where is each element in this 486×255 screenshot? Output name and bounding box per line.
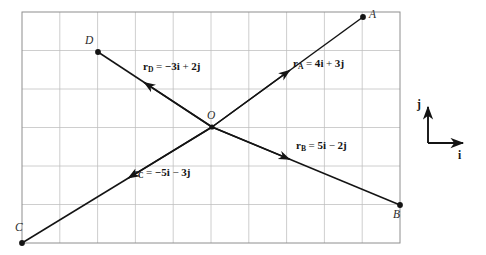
point-dot-A (360, 14, 366, 20)
point-label-D: D (85, 35, 93, 47)
vector-eq-rB: = (306, 139, 317, 151)
vector-j-term-rA: 3j (335, 57, 344, 69)
vector-subscript-rC: C (138, 171, 143, 180)
vector-i-term-rD: −3i (165, 60, 180, 72)
origin-label: O (207, 110, 215, 122)
vector-j-term-rC: 3j (181, 166, 190, 178)
vector-op-rA: + (324, 57, 335, 69)
axis-key (428, 107, 463, 143)
vector-diagram-figure: A B C D O rA=4i+3j rB=5i−2j rC=−5i−3j rD… (0, 0, 486, 255)
point-dot-C (19, 240, 25, 246)
point-label-B: B (393, 209, 400, 221)
vector-op-rD: + (180, 60, 191, 72)
vector-eq-rA: = (303, 57, 314, 69)
vector-i-term-rC: −5i (155, 166, 170, 178)
point-label-A: A (369, 9, 376, 21)
vector-eq-rC: = (143, 166, 154, 178)
vector-label-rB: rB=5i−2j (296, 140, 347, 151)
vector-label-rC: rC=−5i−3j (133, 167, 191, 178)
vector-subscript-rD: D (148, 65, 153, 74)
diagram-canvas (0, 0, 486, 255)
vector-i-term-rA: 4i (315, 57, 324, 69)
vector-label-rD: rD=−3i+2j (143, 61, 201, 72)
vector-eq-rD: = (153, 60, 164, 72)
point-dot-D (95, 49, 101, 55)
vector-j-term-rD: 2j (191, 60, 200, 72)
vector-op-rC: − (170, 166, 181, 178)
vector-rC (22, 127, 212, 243)
vector-subscript-rA: A (298, 62, 303, 71)
vector-j-term-rB: 2j (337, 139, 346, 151)
vector-rA (212, 17, 363, 127)
origin-dot (209, 124, 214, 129)
point-label-C: C (15, 222, 23, 234)
axis-label-j: j (417, 99, 421, 111)
vector-op-rB: − (326, 139, 337, 151)
vector-i-term-rB: 5i (317, 139, 326, 151)
axis-label-i: i (458, 150, 461, 162)
vector-label-rA: rA=4i+3j (293, 58, 344, 69)
vector-subscript-rB: B (301, 144, 306, 153)
